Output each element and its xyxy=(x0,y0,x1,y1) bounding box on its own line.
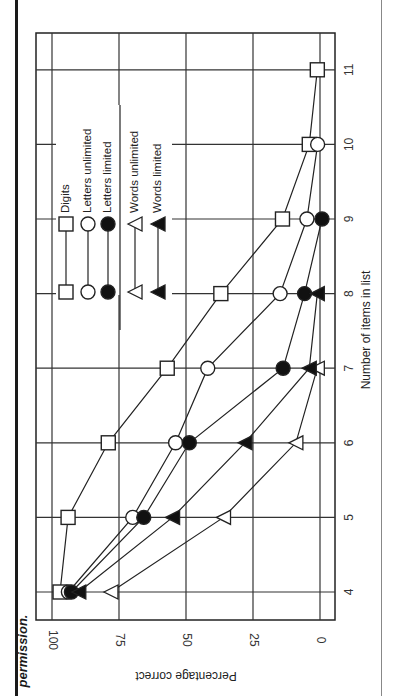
legend-marker-icon xyxy=(59,285,73,299)
legend-marker-icon xyxy=(101,217,115,231)
y-axis-ticks: 0255075100 xyxy=(46,630,328,650)
x-tick-label: 11 xyxy=(342,63,356,76)
series-line xyxy=(111,368,317,592)
circle-marker xyxy=(273,287,287,301)
square-marker xyxy=(160,361,174,375)
x-tick-label: 4 xyxy=(342,588,356,595)
y-tick-label: 0 xyxy=(314,637,328,644)
circle-marker xyxy=(276,361,290,375)
circle-marker xyxy=(315,212,329,226)
legend-label: Digits xyxy=(59,184,71,213)
circle-marker xyxy=(137,510,151,524)
legend-label: Words limited xyxy=(151,144,163,213)
y-tick-label: 75 xyxy=(113,633,127,647)
square-marker xyxy=(214,287,228,301)
square-marker xyxy=(101,436,115,450)
x-tick-label: 10 xyxy=(342,137,356,151)
circle-marker xyxy=(300,212,314,226)
circle-marker xyxy=(169,436,183,450)
series-words-unlimited xyxy=(104,361,324,599)
legend-label: Letters limited xyxy=(101,141,113,213)
x-axis-title: Number of items in list xyxy=(359,270,373,389)
y-tick-label: 25 xyxy=(247,633,261,647)
x-tick-label: 7 xyxy=(342,365,356,372)
triangle-marker xyxy=(104,585,118,599)
legend-marker-icon xyxy=(59,217,73,231)
legend-label: Words unlimited xyxy=(128,131,140,213)
triangle-marker xyxy=(217,510,231,524)
legend: DigitsLetters unlimitedLetters limitedWo… xyxy=(56,105,172,330)
y-tick-label: 100 xyxy=(46,630,60,650)
x-axis-ticks: 4567891011 xyxy=(342,63,356,595)
legend-marker-icon xyxy=(101,285,115,299)
x-tick-label: 6 xyxy=(342,439,356,446)
circle-marker xyxy=(182,436,196,450)
circle-marker xyxy=(201,361,215,375)
line-chart: 0255075100Percentage correct4567891011Nu… xyxy=(0,0,398,696)
y-axis-title: Percentage correct xyxy=(135,669,237,683)
x-tick-label: 9 xyxy=(342,215,356,222)
y-tick-label: 50 xyxy=(180,633,194,647)
square-marker xyxy=(310,63,324,77)
legend-label: Letters unlimited xyxy=(81,129,93,213)
circle-marker xyxy=(311,137,325,151)
x-tick-label: 5 xyxy=(342,514,356,521)
triangle-marker xyxy=(166,510,180,524)
legend-marker-icon xyxy=(81,285,95,299)
legend-marker-icon xyxy=(81,217,95,231)
square-marker xyxy=(275,212,289,226)
square-marker xyxy=(61,510,75,524)
x-tick-label: 8 xyxy=(342,290,356,297)
